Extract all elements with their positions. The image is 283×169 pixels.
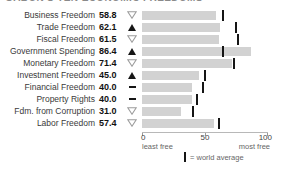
axis-label-50: 50 bbox=[201, 133, 210, 142]
world-average-tick bbox=[222, 10, 224, 21]
trend-up-icon bbox=[128, 24, 136, 31]
row-marker bbox=[122, 119, 142, 127]
bar-fill bbox=[142, 59, 232, 68]
row-value: 61.5 bbox=[99, 33, 122, 45]
bar-track bbox=[142, 35, 268, 44]
row-value: 40.0 bbox=[99, 81, 122, 93]
row-marker bbox=[122, 24, 142, 31]
world-average-legend: = world average bbox=[184, 152, 244, 162]
world-average-tick bbox=[204, 70, 206, 81]
bar-fill bbox=[142, 95, 192, 104]
bar-track bbox=[142, 11, 268, 20]
chart-row: Fdm. from Corruption31.0 bbox=[0, 105, 283, 117]
row-value: 40.0 bbox=[99, 93, 122, 105]
world-average-legend-label: = world average bbox=[190, 153, 244, 162]
chart-row: Government Spending86.4 bbox=[0, 45, 283, 57]
row-label: Labor Freedom bbox=[0, 117, 99, 129]
world-average-tick bbox=[196, 94, 198, 105]
bar-fill bbox=[142, 107, 181, 116]
trend-up-icon bbox=[128, 72, 136, 79]
chart-row: Financial Freedom40.0 bbox=[0, 81, 283, 93]
row-label: Government Spending bbox=[0, 45, 99, 57]
trend-down-icon bbox=[127, 11, 137, 19]
bar-track bbox=[142, 83, 268, 92]
row-value: 58.8 bbox=[99, 9, 122, 21]
world-average-tick bbox=[237, 34, 239, 45]
row-marker bbox=[122, 107, 142, 115]
no-change-icon bbox=[129, 98, 136, 101]
row-label: Fiscal Freedom bbox=[0, 33, 99, 45]
bar-fill bbox=[142, 23, 220, 32]
chart-rows: Business Freedom58.8Trade Freedom62.1Fis… bbox=[0, 9, 283, 129]
chart-row: Labor Freedom57.4 bbox=[0, 117, 283, 129]
trend-down-icon bbox=[127, 119, 137, 127]
world-average-tick bbox=[233, 58, 235, 69]
world-average-tick bbox=[218, 118, 220, 129]
row-label: Financial Freedom bbox=[0, 81, 99, 93]
most-free-label: most free bbox=[239, 142, 270, 151]
chart-title-clipped: GABON'S TEN ECONOMIC FREEDOMS bbox=[0, 0, 283, 6]
trend-up-icon bbox=[128, 48, 136, 55]
bar-fill bbox=[142, 83, 192, 92]
row-marker bbox=[122, 72, 142, 79]
bar-track bbox=[142, 71, 268, 80]
chart-row: Investment Freedom45.0 bbox=[0, 69, 283, 81]
row-marker bbox=[122, 11, 142, 19]
trend-down-icon bbox=[127, 107, 137, 115]
bar-track bbox=[142, 59, 268, 68]
bar-track bbox=[142, 23, 268, 32]
row-marker bbox=[122, 35, 142, 43]
row-value: 86.4 bbox=[99, 45, 122, 57]
row-value: 71.4 bbox=[99, 57, 122, 69]
row-marker bbox=[122, 98, 142, 101]
economic-freedoms-chart: GABON'S TEN ECONOMIC FREEDOMS Business F… bbox=[0, 0, 283, 169]
row-label: Property Rights bbox=[0, 93, 99, 105]
row-marker bbox=[122, 59, 142, 67]
axis-label-0: 0 bbox=[141, 133, 145, 142]
chart-row: Monetary Freedom71.4 bbox=[0, 57, 283, 69]
chart-row: Trade Freedom62.1 bbox=[0, 21, 283, 33]
row-marker bbox=[122, 48, 142, 55]
world-average-tick-icon bbox=[184, 152, 186, 162]
row-value: 45.0 bbox=[99, 69, 122, 81]
row-label: Trade Freedom bbox=[0, 21, 99, 33]
bar-track bbox=[142, 119, 268, 128]
trend-down-icon bbox=[127, 59, 137, 67]
chart-row: Business Freedom58.8 bbox=[0, 9, 283, 21]
bar-fill bbox=[142, 119, 214, 128]
row-label: Fdm. from Corruption bbox=[0, 105, 99, 117]
chart-row: Property Rights40.0 bbox=[0, 93, 283, 105]
row-value: 62.1 bbox=[99, 21, 122, 33]
chart-title: GABON'S TEN ECONOMIC FREEDOMS bbox=[0, 0, 283, 3]
bar-track bbox=[142, 47, 268, 56]
row-marker bbox=[122, 86, 142, 89]
bar-track bbox=[142, 107, 268, 116]
bar-fill bbox=[142, 11, 216, 20]
bar-fill bbox=[142, 71, 199, 80]
row-label: Monetary Freedom bbox=[0, 57, 99, 69]
world-average-tick bbox=[192, 106, 194, 117]
world-average-tick bbox=[222, 46, 224, 57]
row-label: Investment Freedom bbox=[0, 69, 99, 81]
world-average-tick bbox=[235, 22, 237, 33]
world-average-tick bbox=[202, 82, 204, 93]
trend-down-icon bbox=[127, 35, 137, 43]
row-label: Business Freedom bbox=[0, 9, 99, 21]
bar-track bbox=[142, 95, 268, 104]
bar-fill bbox=[142, 47, 251, 56]
no-change-icon bbox=[129, 86, 136, 89]
row-value: 31.0 bbox=[99, 105, 122, 117]
chart-row: Fiscal Freedom61.5 bbox=[0, 33, 283, 45]
row-value: 57.4 bbox=[99, 117, 122, 129]
axis-label-100: 100 bbox=[259, 133, 272, 142]
bar-fill bbox=[142, 35, 219, 44]
least-free-label: least free bbox=[142, 142, 173, 151]
